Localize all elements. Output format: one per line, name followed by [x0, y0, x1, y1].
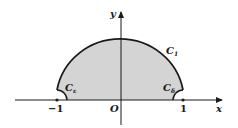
tick-label-one: 1	[180, 103, 187, 114]
tick-label-minus-one: −1	[48, 103, 63, 114]
point-minus-one	[55, 98, 58, 101]
x-axis-label: x	[215, 103, 223, 114]
contour-diagram: y x O −1 1 C1 Cε Cδ	[0, 0, 238, 128]
origin-label: O	[110, 103, 119, 114]
y-axis-label: y	[109, 8, 117, 19]
curve-label-c1: C1	[166, 45, 178, 57]
point-one	[181, 98, 184, 101]
